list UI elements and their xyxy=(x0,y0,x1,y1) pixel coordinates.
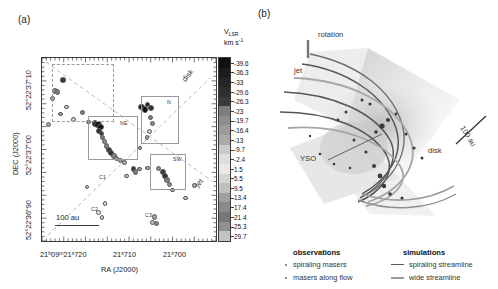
colorbar-ticklabel: -36.3 xyxy=(234,69,249,76)
maser-spot xyxy=(122,160,127,165)
colorbar-segment xyxy=(219,222,230,232)
region-label-C2: C2 xyxy=(91,206,98,212)
panel-a: (a) 52°22'37"10 52°22'37"00 52°22'36"90 … xyxy=(0,0,250,289)
colorbar-segment xyxy=(219,145,230,155)
colorbar-segment xyxy=(219,193,230,203)
colorbar-segment xyxy=(219,174,230,184)
region-box-NE xyxy=(88,116,138,160)
colorbar-title: VLSR km s-1 xyxy=(224,28,243,46)
colorbar-ticklabel: -13 xyxy=(234,137,243,144)
colorbar-ticklabel: -9.7 xyxy=(234,146,245,153)
maser-spot xyxy=(46,122,51,127)
legend-marker-wide-streamline xyxy=(391,277,404,279)
region-label-C3: C3 xyxy=(145,212,152,218)
colorbar-segment xyxy=(219,183,230,193)
legend-item-spiraling-streamline: spiraling streamline xyxy=(409,260,473,269)
colorbar-ticklabel: 13.4 xyxy=(234,194,246,201)
y-axis-label: DEC (J2000) xyxy=(11,132,20,175)
legend-marker-spiraling-streamline xyxy=(391,264,404,265)
colorbar-ticklabel: -29.6 xyxy=(234,89,249,96)
legend-marker-masers-along-flow xyxy=(285,277,287,279)
colorbar-segment xyxy=(219,135,230,145)
x-axis-label: RA (J2000) xyxy=(101,265,138,274)
x-ticklabel-2: 21ˢ700 xyxy=(163,250,186,259)
colorbar-ticklabel: -39.6 xyxy=(234,60,249,67)
colorbar-ticklabel: -23 xyxy=(234,108,243,115)
colorbar-ticklabel: -33 xyxy=(234,79,243,86)
region-label-N: N xyxy=(167,99,171,105)
colorbar-ticklabel: 5.5 xyxy=(234,175,243,182)
colorbar-segment xyxy=(219,87,230,97)
region-label-NE: NE xyxy=(120,120,128,126)
maser-spot xyxy=(124,174,128,178)
maser-spot xyxy=(138,146,142,150)
colorbar-segment xyxy=(219,164,230,174)
legend-item-spiraling-masers: spiraling masers xyxy=(293,260,347,269)
legend: observations simulations spiraling maser… xyxy=(283,248,498,286)
region-label-SW: SW xyxy=(173,156,182,162)
annotation-jet-panel-b: jet xyxy=(294,66,302,75)
colorbar-segment xyxy=(219,58,230,68)
y-ticklabel-2: 52°22'36"90 xyxy=(24,200,33,240)
colorbar-ticklabel: 9.5 xyxy=(234,185,243,192)
colorbar-ticklabel: -16.4 xyxy=(234,127,249,134)
colorbar-title-sub: LSR xyxy=(229,31,239,37)
maser-spot xyxy=(103,201,108,206)
colorbar-ticklabel: 29.7 xyxy=(234,233,246,240)
legend-item-masers-along-flow: masers along flow xyxy=(293,273,353,282)
legend-header-simulations: simulations xyxy=(403,248,445,257)
colorbar-ticklabel: 17.4 xyxy=(234,204,246,211)
x-ticklabel-0: 21ʰ09ᵐ21ˢ720 xyxy=(40,250,87,259)
region-box-N xyxy=(141,96,179,144)
maser-spot xyxy=(100,215,105,220)
maser-spot xyxy=(85,185,89,189)
colorbar-segment xyxy=(219,212,230,222)
colorbar-segment xyxy=(219,106,230,116)
maser-spot xyxy=(183,196,188,201)
colorbar-ticklabel: 1.5 xyxy=(234,166,243,173)
annotation-disk-panel-b: disk xyxy=(428,146,442,155)
maser-spot xyxy=(137,167,142,172)
figure-root: (a) 52°22'37"10 52°22'37"00 52°22'36"90 … xyxy=(0,0,498,289)
colorbar-ticklabel: -2.4 xyxy=(234,156,245,163)
colorbar-segment xyxy=(219,125,230,135)
colorbar-ticklabel: -26.3 xyxy=(234,98,249,105)
colorbar-title-units: km s xyxy=(224,39,239,46)
colorbar-segment xyxy=(219,77,230,87)
colorbar-title-units-exp: -1 xyxy=(239,37,243,43)
colorbar-segment xyxy=(219,231,230,241)
panel-b: (b) xyxy=(250,0,498,289)
region-label-C1: C1 xyxy=(99,174,106,180)
panel-b-overlay xyxy=(250,8,498,233)
scalebar-line-panel-a xyxy=(55,225,99,226)
panel-b-scene: rotation jet disk YSO 100 au xyxy=(250,8,498,233)
colorbar-segment xyxy=(219,154,230,164)
maser-spot xyxy=(152,214,158,220)
colorbar-segment xyxy=(219,97,230,107)
panel-a-label: (a) xyxy=(18,14,30,25)
x-ticklabel-1: 21ˢ710 xyxy=(113,250,136,259)
colorbar-ticklabel: -19.7 xyxy=(234,117,249,124)
colorbar-ticklabel: 25.3 xyxy=(234,223,246,230)
colorbar-segment xyxy=(219,116,230,126)
legend-marker-spiraling-masers xyxy=(285,264,287,266)
annotation-yso: YSO xyxy=(300,154,316,163)
colorbar xyxy=(218,57,231,242)
region-box-outer-dashed xyxy=(52,64,114,122)
colorbar-segment xyxy=(219,202,230,212)
y-ticklabel-0: 52°22'37"10 xyxy=(24,70,33,110)
scalebar-label-panel-a: 100 au xyxy=(56,213,79,222)
legend-header-observations: observations xyxy=(293,248,340,257)
legend-item-wide-streamline: wide streamline xyxy=(409,273,460,282)
colorbar-segment xyxy=(219,68,230,78)
colorbar-ticklabel: 21.4 xyxy=(234,214,246,221)
annotation-rotation: rotation xyxy=(318,30,343,39)
maser-spot xyxy=(154,221,159,226)
y-ticklabel-1: 52°22'37"00 xyxy=(24,135,33,175)
